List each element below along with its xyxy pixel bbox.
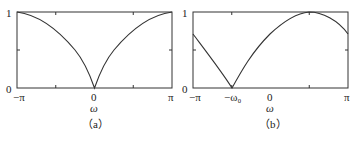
- x-tick-neg-pi-a: −π: [13, 91, 25, 103]
- plot-frame-b: [193, 12, 348, 88]
- chart-a: 1 0 −π 0 π ω （a）: [6, 7, 174, 130]
- y-tick-0-a: 0: [6, 83, 12, 95]
- caption-a: （a）: [82, 118, 109, 130]
- x-label-b: ω: [266, 102, 274, 114]
- curve-a: [17, 12, 172, 88]
- chart-b: 1 0 −π −ω₀ 0 π ω （b）: [182, 7, 350, 130]
- figure: 1 0 −π 0 π ω （a） 1 0 −π −ω₀ 0 π ω （b）: [0, 0, 358, 141]
- y-tick-1-a: 1: [6, 7, 12, 19]
- x-tick-neg-omega0-b: −ω₀: [224, 91, 241, 103]
- plot-frame-a: [17, 12, 172, 88]
- ticks-a: [17, 12, 172, 88]
- y-tick-0-b: 0: [182, 83, 188, 95]
- caption-b: （b）: [259, 118, 287, 130]
- ticks-b: [193, 12, 348, 88]
- x-label-a: ω: [90, 102, 98, 114]
- x-tick-pi-b: π: [344, 91, 350, 103]
- y-tick-1-b: 1: [182, 7, 188, 19]
- curve-b: [193, 12, 348, 88]
- x-tick-pi-a: π: [168, 91, 174, 103]
- x-tick-neg-pi-b: −π: [189, 91, 201, 103]
